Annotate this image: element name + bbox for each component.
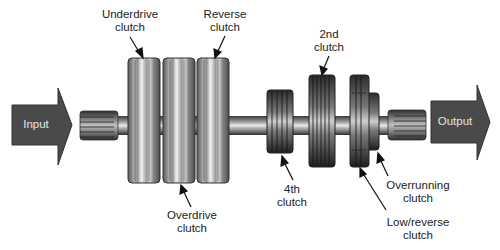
underdrive-clutch-label: Underdrive clutch: [100, 8, 160, 34]
input-shaft-spline: [80, 111, 118, 140]
clutch-diagram: Input Output Underdrive clutch Reverse c…: [0, 0, 500, 250]
input-label: Input: [12, 118, 60, 130]
second-clutch: [309, 75, 335, 167]
low-reverse-clutch: [350, 75, 369, 167]
overdrive-clutch-label: Overdrive clutch: [162, 209, 222, 235]
second-clutch-label: 2nd clutch: [309, 28, 349, 54]
overrunning-clutch-label: Overrunning clutch: [383, 179, 453, 205]
output-label: Output: [431, 115, 479, 127]
fourth-clutch-label: 4th clutch: [272, 183, 312, 209]
reverse-clutch: [197, 58, 229, 183]
overdrive-clutch: [163, 58, 195, 183]
fourth-clutch: [267, 90, 293, 153]
diagram-graphic: [0, 0, 500, 250]
low-reverse-clutch-label: Low/reverse clutch: [383, 216, 453, 242]
underdrive-clutch: [128, 58, 160, 183]
reverse-clutch-label: Reverse clutch: [200, 8, 250, 34]
output-shaft-spline: [388, 110, 426, 140]
